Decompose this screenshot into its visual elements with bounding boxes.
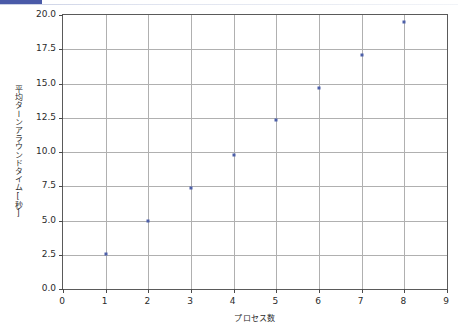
x-axis-tick [362, 289, 363, 293]
x-axis-tick [191, 289, 192, 293]
window-top-strip [0, 0, 458, 8]
y-axis-tick-label: 7.5 [42, 180, 56, 190]
gridline-vertical [148, 15, 149, 289]
y-axis-tick [59, 255, 63, 256]
gridline-vertical [234, 15, 235, 289]
y-axis-tick [59, 118, 63, 119]
x-axis-title: プロセス数 [62, 312, 448, 323]
data-point [360, 54, 363, 57]
x-axis-tick-label: 0 [59, 296, 65, 306]
y-axis-tick-labels: 0.02.55.07.510.012.515.017.520.0 [22, 14, 56, 290]
x-axis-tick [63, 289, 64, 293]
gridline-horizontal [63, 221, 447, 222]
x-axis-tick-label: 6 [315, 296, 321, 306]
x-axis-tick-labels: 0123456789 [62, 296, 448, 310]
x-axis-tick [234, 289, 235, 293]
y-axis-tick [59, 186, 63, 187]
gridline-horizontal [63, 152, 447, 153]
x-axis-tick-label: 2 [144, 296, 150, 306]
x-axis-tick-label: 7 [358, 296, 364, 306]
y-axis-tick [59, 49, 63, 50]
x-axis-tick [319, 289, 320, 293]
gridline-horizontal [63, 49, 447, 50]
chart-figure: 平均ターンアラウンドタイム[秒] 0.02.55.07.510.012.515.… [0, 8, 458, 335]
x-axis-tick-label: 3 [187, 296, 193, 306]
x-axis-tick [148, 289, 149, 293]
y-axis-tick [59, 84, 63, 85]
gridline-vertical [276, 15, 277, 289]
plot-area [62, 14, 448, 290]
y-axis-tick-label: 15.0 [36, 78, 56, 88]
gridline-horizontal [63, 255, 447, 256]
x-axis-tick-label: 8 [400, 296, 406, 306]
gridline-horizontal [63, 186, 447, 187]
gridline-horizontal [63, 84, 447, 85]
data-point [403, 20, 406, 23]
y-axis-tick-label: 17.5 [36, 43, 56, 53]
gridline-vertical [106, 15, 107, 289]
y-axis-tick-label: 2.5 [42, 249, 56, 259]
x-axis-tick [276, 289, 277, 293]
data-point [275, 119, 278, 122]
x-axis-tick-label: 1 [102, 296, 108, 306]
y-axis-tick-label: 10.0 [36, 146, 56, 156]
header-divider [0, 4, 458, 5]
data-point [147, 220, 150, 223]
x-axis-tick-label: 5 [272, 296, 278, 306]
x-axis-tick [447, 289, 448, 293]
y-axis-tick [59, 221, 63, 222]
gridline-vertical [404, 15, 405, 289]
x-axis-tick-label: 9 [443, 296, 449, 306]
x-axis-tick [404, 289, 405, 293]
gridline-horizontal [63, 118, 447, 119]
y-axis-tick-label: 12.5 [36, 112, 56, 122]
y-axis-tick-label: 0.0 [42, 283, 56, 293]
y-axis-tick-label: 20.0 [36, 9, 56, 19]
gridline-vertical [191, 15, 192, 289]
gridline-vertical [319, 15, 320, 289]
x-axis-tick [106, 289, 107, 293]
y-axis-tick-label: 5.0 [42, 215, 56, 225]
x-axis-tick-label: 4 [230, 296, 236, 306]
y-axis-tick [59, 152, 63, 153]
y-axis-tick [59, 15, 63, 16]
data-point [190, 186, 193, 189]
data-point [104, 253, 107, 256]
data-point [318, 86, 321, 89]
data-point [232, 153, 235, 156]
